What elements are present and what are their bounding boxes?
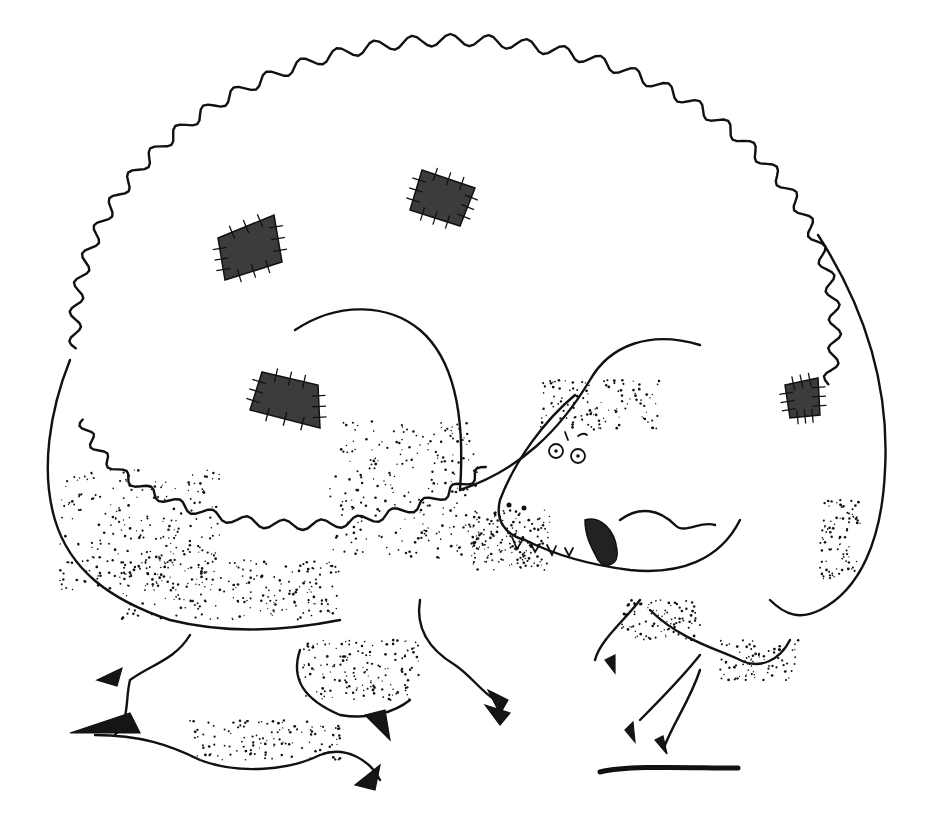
stipple-dot [827, 500, 830, 503]
stipple-dot [557, 411, 558, 412]
stipple-dot [73, 504, 75, 506]
stipple-dot [513, 534, 514, 535]
stipple-dot [112, 533, 114, 535]
stipple-dot [237, 726, 239, 728]
stipple-dot [341, 514, 343, 516]
stipple-dot [314, 750, 317, 753]
stipple-dot [822, 538, 824, 540]
stipple-dot [194, 737, 196, 739]
stipple-dot [428, 488, 430, 490]
stipple-dot [243, 746, 245, 748]
stipple-dot [683, 620, 685, 622]
stipple-dot [315, 579, 317, 581]
shoulder-fold [295, 309, 700, 490]
stipple-dot [404, 518, 405, 519]
stipple-dot [296, 728, 298, 730]
stipple-dot [356, 549, 358, 551]
stipple-dot [325, 598, 328, 601]
stipple-dot [293, 725, 296, 728]
stipple-dot [412, 430, 415, 433]
stipple-dot [736, 645, 739, 648]
stipple-dot [688, 621, 691, 624]
stipple-dot [306, 642, 309, 645]
stipple-dot [422, 523, 423, 524]
stipple-dot [334, 679, 336, 681]
stipple-dot [457, 487, 458, 488]
stipple-dot [488, 555, 489, 556]
stipple-dot [649, 397, 650, 398]
stipple-dot [427, 505, 429, 507]
stipple-dot [374, 497, 377, 500]
stipple-dot [136, 497, 137, 498]
stipple-dot [345, 533, 347, 535]
stipple-dot [343, 422, 345, 424]
stipple-dot [201, 613, 203, 615]
stipple-dot [549, 550, 551, 552]
stipple-dot [228, 730, 230, 732]
stipple-dot [673, 626, 676, 629]
stipple-dot [167, 529, 170, 532]
stipple-dot [396, 464, 397, 465]
stipple-dot [605, 384, 607, 386]
stipple-dot [453, 526, 455, 528]
stipple-dot [366, 669, 368, 671]
stipple-dot [306, 570, 308, 572]
stipple-dot [197, 545, 199, 547]
stipple-dot [613, 379, 616, 382]
stipple-dot [830, 536, 832, 538]
stipple-dot [304, 581, 305, 582]
stipple-dot [153, 589, 155, 591]
stipple-dot [332, 734, 335, 737]
stipple-dot [396, 639, 399, 642]
stipple-dot [434, 462, 436, 464]
stipple-dot [251, 735, 253, 737]
stipple-dot [658, 380, 660, 382]
stipple-dot [628, 603, 631, 606]
stipple-dot [479, 546, 480, 547]
stipple-dot [237, 567, 239, 569]
stipple-dot [456, 440, 459, 443]
stipple-dot [549, 516, 550, 517]
stipple-dot [212, 472, 214, 474]
stipple-dot [141, 489, 143, 491]
stipple-dot [492, 534, 494, 536]
stipple-dot [197, 602, 199, 604]
stipple-dot [488, 523, 490, 525]
stipple-dot [674, 617, 676, 619]
stipple-dot [219, 588, 222, 591]
stipple-dot [249, 576, 252, 579]
stipple-dot [320, 567, 322, 569]
stipple-dot [61, 499, 62, 500]
stipple-dot [246, 583, 248, 585]
stipple-dot [112, 559, 114, 561]
stipple-dot [785, 679, 787, 681]
stipple-dot [656, 415, 658, 417]
stipple-dot [122, 561, 124, 563]
stipple-dot [136, 530, 137, 531]
stipple-dot [213, 725, 215, 727]
stipple-dot [175, 596, 177, 598]
stipple-dot [75, 579, 77, 581]
stipple-dot [299, 679, 300, 680]
stipple-dot [630, 599, 633, 602]
stipple-dot [299, 564, 302, 567]
stipple-dot [441, 461, 443, 463]
stipple-dot [335, 571, 337, 573]
stipple-dot [222, 759, 223, 760]
stipple-dot [509, 543, 511, 545]
stipple-dot [492, 523, 493, 524]
stipple-dot [728, 667, 730, 669]
stipple-dot [242, 575, 244, 577]
stipple-dot [334, 758, 336, 760]
stipple-dot [508, 532, 510, 534]
stipple-dot [846, 550, 848, 552]
stipple-dot [267, 596, 269, 598]
stipple-dot [346, 687, 348, 689]
stipple-dot [212, 535, 214, 537]
stipple-dot [450, 545, 453, 548]
stipple-dot [677, 633, 679, 635]
stipple-dot [160, 567, 162, 569]
stipple-dot [295, 605, 297, 607]
stipple-dot [321, 743, 323, 745]
stipple-dot [196, 729, 198, 731]
